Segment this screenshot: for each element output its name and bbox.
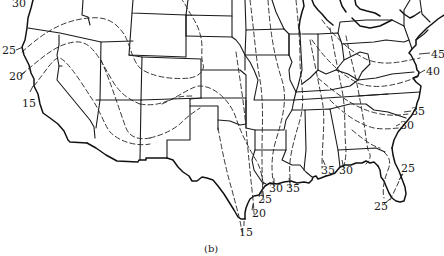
contour-labels: 30 25 20 15 15 20 25 30 35 35 30 45 40 3… bbox=[2, 0, 444, 239]
us-map: 30 25 20 15 15 20 25 30 35 35 30 45 40 3… bbox=[0, 0, 444, 256]
label-45-east: 45 bbox=[431, 48, 444, 61]
contour-map-figure: 30 25 20 15 15 20 25 30 35 35 30 45 40 3… bbox=[0, 0, 444, 256]
label-15-texas: 15 bbox=[239, 226, 253, 239]
contour-30-texas bbox=[268, 0, 284, 186]
label-35-gulf: 35 bbox=[321, 164, 335, 177]
label-25-west: 25 bbox=[2, 44, 16, 57]
label-30-gulf: 30 bbox=[339, 164, 353, 177]
contour-20-texas bbox=[236, 52, 254, 214]
label-30-west: 30 bbox=[12, 0, 26, 10]
label-leaders bbox=[16, 47, 430, 226]
label-15-west: 15 bbox=[22, 97, 36, 110]
label-25-florida-south: 25 bbox=[374, 200, 388, 213]
contour-35-gulf bbox=[310, 40, 324, 168]
label-40-east: 40 bbox=[426, 65, 440, 78]
label-25-florida-east: 25 bbox=[401, 162, 415, 175]
label-35-texas: 35 bbox=[286, 182, 300, 195]
label-20-texas: 20 bbox=[252, 207, 266, 220]
label-30-east: 30 bbox=[400, 119, 414, 132]
label-30-texas: 30 bbox=[269, 182, 283, 195]
contour-15-west bbox=[34, 58, 150, 145]
contour-lines bbox=[22, 0, 420, 232]
contour-35-east bbox=[318, 78, 408, 115]
coastline bbox=[22, 0, 444, 219]
contour-35-texas bbox=[290, 0, 303, 188]
contour-20-west bbox=[22, 42, 140, 104]
label-20-west: 20 bbox=[9, 70, 23, 83]
figure-caption: (b) bbox=[204, 243, 218, 254]
label-35-east: 35 bbox=[411, 105, 425, 118]
